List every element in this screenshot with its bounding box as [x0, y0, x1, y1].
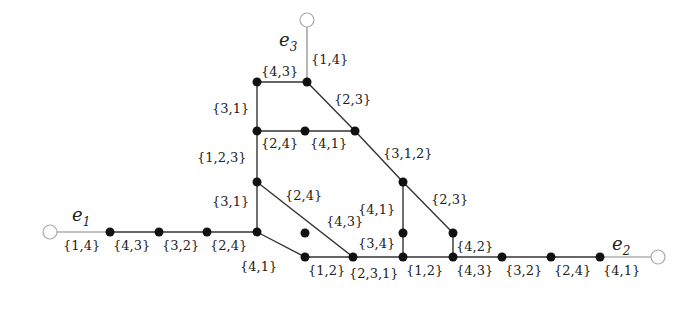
edge-labels: {1,4} {4,3} {3,1} {2,3} {2,4} {4,1} {1,2…: [63, 52, 640, 281]
node: [399, 229, 408, 238]
edge-label: {1,4}: [63, 238, 100, 253]
node: [253, 127, 262, 136]
node: [301, 229, 310, 238]
edge-label: {1,2}: [308, 263, 345, 278]
edge-label: {3,4}: [358, 236, 395, 251]
node: [596, 253, 605, 262]
terminal-e1-node: [43, 225, 57, 239]
edge-label: {2,4}: [285, 188, 322, 203]
edge-label: {3,1,2}: [383, 146, 433, 161]
node: [449, 229, 458, 238]
edge-label: {2,3}: [431, 192, 468, 207]
diagonal-right-edge: [403, 182, 453, 233]
edge-label: {4,1}: [240, 259, 277, 274]
edge-label: {4,3}: [456, 263, 493, 278]
node: [203, 228, 212, 237]
edge-label: {2,3,1}: [349, 266, 399, 281]
edge-label: {2,4}: [261, 136, 298, 151]
edge-label: {4,2}: [456, 239, 493, 254]
node: [349, 253, 358, 262]
node: [303, 78, 312, 87]
terminal-e3-node: [300, 13, 314, 27]
edge-label: {4,1}: [603, 263, 640, 278]
node: [253, 228, 262, 237]
diagonal-low-edge: [257, 232, 305, 257]
edge-label: {4,1}: [310, 136, 347, 151]
node: [399, 253, 408, 262]
edge-label: {4,3}: [113, 238, 150, 253]
edge-label: {3,2}: [505, 263, 542, 278]
node: [106, 228, 115, 237]
node: [301, 127, 310, 136]
edge-label: {2,4}: [210, 238, 247, 253]
edge-label: {1,4}: [311, 52, 348, 67]
node: [547, 253, 556, 262]
edge-label: {1,2,3}: [197, 150, 247, 165]
node: [155, 228, 164, 237]
terminal-e1-label: e1: [72, 204, 90, 229]
edge-label: {2,4}: [554, 263, 591, 278]
node: [498, 253, 507, 262]
terminal-e3-label: e3: [279, 29, 298, 54]
edge-label: {3,1}: [212, 101, 249, 116]
edge-label: {3,1}: [212, 194, 249, 209]
edge-label: {2,3}: [334, 92, 371, 107]
edge-label: {1,2}: [406, 263, 443, 278]
graph-diagram: e3 e1 e2 {1,4} {4,3} {3,1} {2,3} {2,4} {…: [0, 0, 700, 328]
node: [253, 178, 262, 187]
edge-label: {3,2}: [162, 238, 199, 253]
terminal-e2-node: [651, 250, 665, 264]
edge-label: {4,1}: [358, 202, 395, 217]
node: [351, 127, 360, 136]
node: [301, 253, 310, 262]
node: [399, 178, 408, 187]
edge-label: {4,3}: [261, 64, 298, 79]
terminal-e2-label: e2: [612, 233, 630, 258]
